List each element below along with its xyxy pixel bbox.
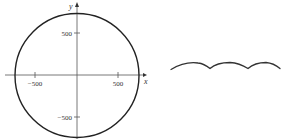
circle-plot: −500 500 500 −500 x y [5, 2, 148, 139]
x-tick-label-500: 500 [113, 80, 124, 88]
y-axis-arrow-icon [75, 2, 79, 7]
y-tick-label-neg500: −500 [58, 114, 73, 122]
wavy-curve-plot [171, 63, 280, 70]
x-axis-label: x [143, 77, 148, 86]
x-tick-label-neg500: −500 [28, 80, 43, 88]
figure-canvas: −500 500 500 −500 x y [0, 0, 282, 139]
wavy-curve [171, 63, 280, 70]
y-tick-label-500: 500 [62, 30, 73, 38]
y-axis-label: y [68, 2, 73, 11]
